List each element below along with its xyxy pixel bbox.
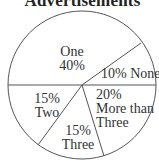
slice-label-more-than-three: 20% More than Three <box>96 88 154 130</box>
slice-label-three: 15% Three <box>58 124 98 152</box>
slice-label-three-value: 15% <box>58 124 98 138</box>
slice-label-two-name: Two <box>27 106 67 120</box>
slice-label-two: 15% Two <box>27 92 67 120</box>
slice-label-more-than-three-name-2: Three <box>96 116 154 130</box>
slice-label-three-name: Three <box>58 138 98 152</box>
slice-label-one-value: 40% <box>52 59 92 73</box>
slice-label-one-name: One <box>52 45 92 59</box>
slice-label-more-than-three-name-1: More than <box>96 102 154 116</box>
slice-label-two-value: 15% <box>27 92 67 106</box>
slice-label-one: One 40% <box>52 45 92 73</box>
slice-label-more-than-three-value: 20% <box>96 88 154 102</box>
slice-label-none: 10% None <box>101 67 159 81</box>
